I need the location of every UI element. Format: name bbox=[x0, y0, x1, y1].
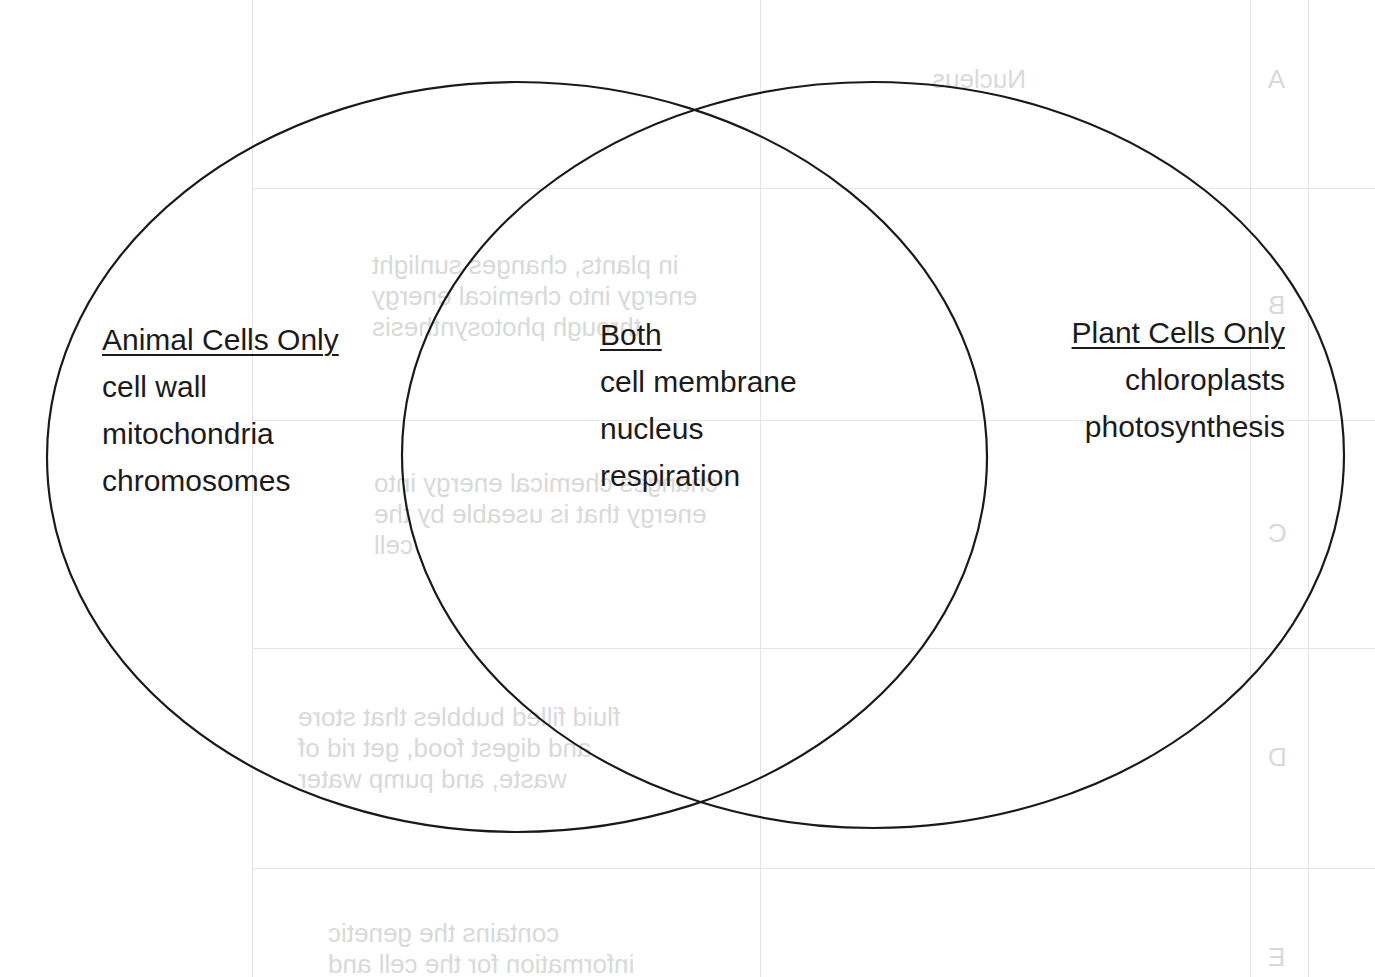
plant-cell-ellipse bbox=[402, 82, 1344, 828]
animal-cells-region: Animal Cells Only cell wall mitochondria… bbox=[102, 316, 339, 504]
both-item: nucleus bbox=[600, 405, 797, 452]
animal-item: mitochondria bbox=[102, 410, 339, 457]
both-heading: Both bbox=[600, 311, 797, 358]
both-region: Both cell membrane nucleus respiration bbox=[600, 311, 797, 499]
plant-cells-heading: Plant Cells Only bbox=[1000, 309, 1285, 356]
plant-item: chloroplasts bbox=[1000, 356, 1285, 403]
animal-item: cell wall bbox=[102, 363, 339, 410]
animal-cells-heading: Animal Cells Only bbox=[102, 316, 339, 363]
plant-item: photosynthesis bbox=[1000, 403, 1285, 450]
animal-item: chromosomes bbox=[102, 457, 339, 504]
plant-cells-region: Plant Cells Only chloroplasts photosynth… bbox=[1000, 309, 1285, 450]
both-item: respiration bbox=[600, 452, 797, 499]
both-item: cell membrane bbox=[600, 358, 797, 405]
